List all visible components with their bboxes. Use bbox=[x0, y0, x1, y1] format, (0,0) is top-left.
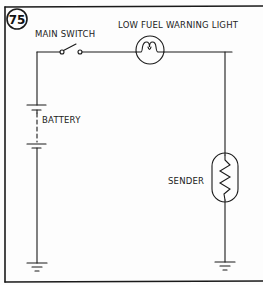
battery-icon bbox=[27, 105, 46, 148]
wiring-diagram: 75 bbox=[0, 0, 263, 285]
diagram-svg: 75 bbox=[0, 0, 263, 285]
main-switch-label: MAIN SWITCH bbox=[35, 29, 95, 39]
sender-label: SENDER bbox=[168, 176, 204, 186]
ground-left-icon bbox=[27, 263, 47, 271]
battery-label: BATTERY bbox=[42, 115, 81, 125]
ground-right-icon bbox=[215, 262, 235, 270]
sender-icon bbox=[212, 153, 238, 202]
warning-light-icon bbox=[136, 36, 164, 64]
main-switch-icon bbox=[60, 44, 82, 54]
figure-number: 75 bbox=[9, 13, 26, 27]
warning-light-label: LOW FUEL WARNING LIGHT bbox=[118, 20, 239, 30]
figure-number-badge: 75 bbox=[7, 9, 27, 29]
